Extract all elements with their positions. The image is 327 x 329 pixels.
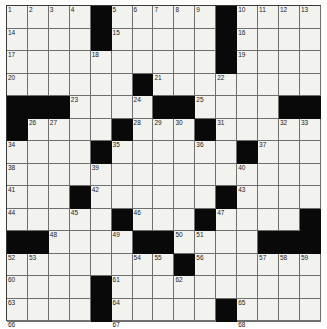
grid-cell[interactable]	[70, 164, 91, 187]
grid-cell[interactable]	[70, 254, 91, 277]
grid-cell[interactable]	[133, 321, 154, 322]
grid-cell[interactable]: 38	[7, 164, 28, 187]
grid-cell[interactable]	[133, 186, 154, 209]
grid-cell[interactable]	[153, 51, 174, 74]
grid-cell[interactable]	[300, 164, 321, 187]
grid-cell[interactable]	[279, 299, 300, 322]
grid-cell[interactable]	[279, 164, 300, 187]
grid-cell[interactable]	[49, 321, 70, 322]
grid-cell[interactable]	[279, 209, 300, 232]
grid-cell[interactable]: 31	[216, 119, 237, 142]
grid-cell[interactable]	[300, 51, 321, 74]
grid-cell[interactable]: 14	[7, 29, 28, 52]
grid-cell[interactable]	[279, 74, 300, 97]
grid-cell[interactable]: 32	[279, 119, 300, 142]
grid-cell[interactable]: 60	[7, 276, 28, 299]
grid-cell[interactable]: 68	[237, 321, 258, 322]
grid-cell[interactable]	[300, 276, 321, 299]
grid-cell[interactable]	[70, 51, 91, 74]
grid-cell[interactable]: 47	[216, 209, 237, 232]
grid-cell[interactable]: 30	[174, 119, 195, 142]
grid-cell[interactable]	[216, 231, 237, 254]
grid-cell[interactable]: 37	[258, 141, 279, 164]
grid-cell[interactable]: 42	[91, 186, 112, 209]
grid-cell[interactable]	[133, 51, 154, 74]
grid-cell[interactable]: 18	[91, 51, 112, 74]
grid-cell[interactable]	[237, 276, 258, 299]
grid-cell[interactable]	[174, 141, 195, 164]
grid-cell[interactable]	[28, 276, 49, 299]
grid-cell[interactable]	[279, 321, 300, 322]
grid-cell[interactable]	[153, 299, 174, 322]
grid-cell[interactable]: 44	[7, 209, 28, 232]
grid-cell[interactable]: 61	[112, 276, 133, 299]
grid-cell[interactable]	[174, 74, 195, 97]
grid-cell[interactable]	[216, 254, 237, 277]
grid-cell[interactable]	[279, 29, 300, 52]
grid-cell[interactable]	[133, 276, 154, 299]
grid-cell[interactable]	[28, 51, 49, 74]
grid-cell[interactable]: 13	[300, 6, 321, 29]
grid-cell[interactable]	[300, 29, 321, 52]
grid-cell[interactable]	[28, 321, 49, 322]
grid-cell[interactable]: 27	[49, 119, 70, 142]
grid-cell[interactable]: 36	[195, 141, 216, 164]
grid-cell[interactable]: 10	[237, 6, 258, 29]
grid-cell[interactable]	[70, 141, 91, 164]
grid-cell[interactable]	[112, 164, 133, 187]
grid-cell[interactable]	[237, 119, 258, 142]
grid-cell[interactable]	[49, 254, 70, 277]
grid-cell[interactable]: 9	[195, 6, 216, 29]
grid-cell[interactable]	[91, 74, 112, 97]
grid-cell[interactable]	[133, 29, 154, 52]
grid-cell[interactable]	[300, 321, 321, 322]
grid-cell[interactable]	[133, 299, 154, 322]
grid-cell[interactable]: 41	[7, 186, 28, 209]
grid-cell[interactable]	[91, 96, 112, 119]
grid-cell[interactable]: 21	[153, 74, 174, 97]
grid-cell[interactable]	[174, 321, 195, 322]
grid-cell[interactable]	[174, 51, 195, 74]
grid-cell[interactable]	[216, 141, 237, 164]
grid-cell[interactable]	[258, 51, 279, 74]
grid-cell[interactable]	[28, 186, 49, 209]
grid-cell[interactable]	[258, 164, 279, 187]
grid-cell[interactable]	[112, 51, 133, 74]
grid-cell[interactable]	[174, 186, 195, 209]
grid-cell[interactable]	[195, 276, 216, 299]
grid-cell[interactable]: 64	[112, 299, 133, 322]
grid-cell[interactable]	[174, 209, 195, 232]
grid-cell[interactable]: 8	[174, 6, 195, 29]
grid-cell[interactable]	[70, 321, 91, 322]
grid-cell[interactable]	[195, 164, 216, 187]
grid-cell[interactable]	[300, 299, 321, 322]
grid-cell[interactable]	[49, 164, 70, 187]
grid-cell[interactable]	[195, 74, 216, 97]
grid-cell[interactable]	[258, 96, 279, 119]
grid-cell[interactable]	[258, 321, 279, 322]
grid-cell[interactable]	[216, 276, 237, 299]
grid-cell[interactable]	[70, 231, 91, 254]
grid-cell[interactable]: 66	[7, 321, 28, 322]
grid-cell[interactable]	[195, 29, 216, 52]
grid-cell[interactable]	[195, 321, 216, 322]
grid-cell[interactable]	[112, 186, 133, 209]
grid-cell[interactable]	[153, 164, 174, 187]
grid-cell[interactable]	[258, 29, 279, 52]
grid-cell[interactable]	[258, 74, 279, 97]
grid-cell[interactable]: 24	[133, 96, 154, 119]
grid-cell[interactable]: 35	[112, 141, 133, 164]
grid-cell[interactable]	[133, 164, 154, 187]
grid-cell[interactable]	[258, 276, 279, 299]
grid-cell[interactable]	[195, 51, 216, 74]
grid-cell[interactable]	[237, 254, 258, 277]
grid-cell[interactable]	[237, 74, 258, 97]
grid-cell[interactable]	[258, 119, 279, 142]
grid-cell[interactable]	[153, 29, 174, 52]
grid-cell[interactable]: 52	[7, 254, 28, 277]
grid-cell[interactable]: 43	[237, 186, 258, 209]
grid-cell[interactable]	[49, 209, 70, 232]
grid-cell[interactable]: 22	[216, 74, 237, 97]
grid-cell[interactable]: 15	[112, 29, 133, 52]
grid-cell[interactable]	[70, 276, 91, 299]
